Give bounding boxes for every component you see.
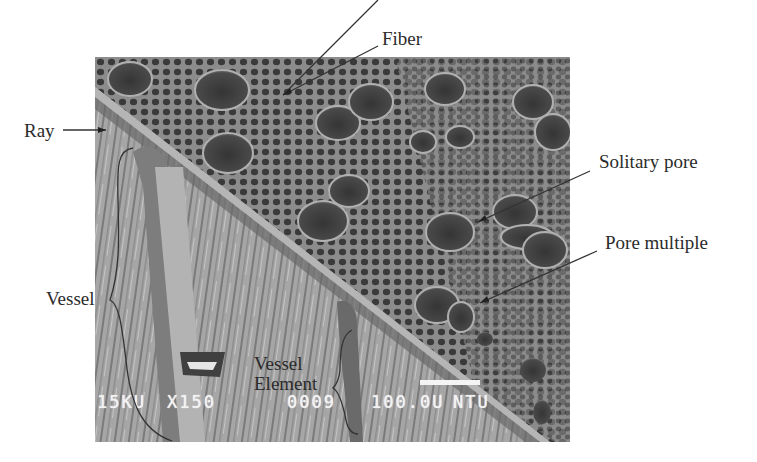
label-solitary-pore: Solitary pore xyxy=(599,152,698,172)
sem-magnification: X150 xyxy=(167,392,216,412)
label-vessel-element-line1: Vessel xyxy=(254,354,303,374)
sem-scale-value: 100.0U xyxy=(371,392,444,412)
sem-voltage: 15KU xyxy=(97,392,146,412)
sem-micrograph: 15KU X150 0009 100.0U NTU xyxy=(95,57,570,442)
label-vessel-element-line2: Element xyxy=(254,374,317,394)
figure: 15KU X150 0009 100.0U NTU xyxy=(0,0,757,462)
label-ray: Ray xyxy=(24,121,55,141)
label-fiber: Fiber xyxy=(382,29,422,49)
label-pore-multiple: Pore multiple xyxy=(605,233,708,253)
sem-frame-number: 0009 xyxy=(287,392,336,412)
scale-bar xyxy=(420,380,480,385)
sem-lab-id: NTU xyxy=(453,392,490,412)
label-vessel: Vessel xyxy=(46,289,95,309)
